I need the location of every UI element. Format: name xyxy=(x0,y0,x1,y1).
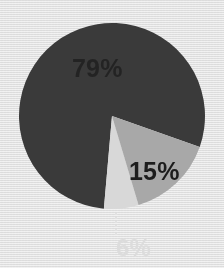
pie-label-6: 6% xyxy=(116,234,151,262)
pie-label-15: 15% xyxy=(129,157,180,186)
pie-label-79: 79% xyxy=(72,54,123,83)
pie-chart-svg xyxy=(0,0,224,268)
pie-chart-figure: 79% 15% 6% xyxy=(0,0,224,268)
leader-line-6-percent xyxy=(115,213,117,235)
